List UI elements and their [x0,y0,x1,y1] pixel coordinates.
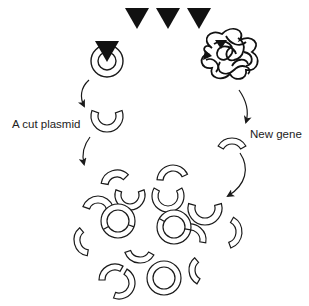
intact-plasmid [91,41,123,77]
arrow-to-cut-plasmid [81,80,89,106]
restriction-enzyme-icon [156,8,180,29]
dna-fragment [125,250,154,263]
arrow-to-new-gene [239,90,247,122]
restriction-enzyme-icon [187,8,211,29]
dna-fragment [188,204,222,225]
recombinant-plasmid [147,261,181,295]
dna-fragment [157,165,187,180]
arrow-new-gene-to-mixture [228,153,245,196]
new-gene-fragment [218,138,246,149]
new-gene-label: New gene [250,128,302,140]
cut-plasmid-shape [91,111,123,132]
dna-fragment [229,217,242,248]
dna-fragment [74,228,88,256]
plasmid-half [99,264,123,280]
dna-fragment [152,188,184,212]
recombinant-plasmid [157,210,191,244]
restriction-enzymes-top [125,8,211,29]
arrow-cut-plasmid-to-mixture [83,137,90,164]
recombinant-plasmid [101,204,135,238]
dna-fragment [189,258,200,284]
gene-half [114,269,135,299]
donor-dna-tangle [202,29,258,79]
dna-fragment [101,170,128,184]
cut-plasmid-arc [91,111,123,132]
cut-plasmid-label: A cut plasmid [12,118,80,130]
recombinant-dna-diagram [0,0,309,306]
plasmid-gene-mixture [74,165,242,299]
gene-fragment-arc [218,138,246,149]
restriction-enzyme-icon [125,8,149,29]
